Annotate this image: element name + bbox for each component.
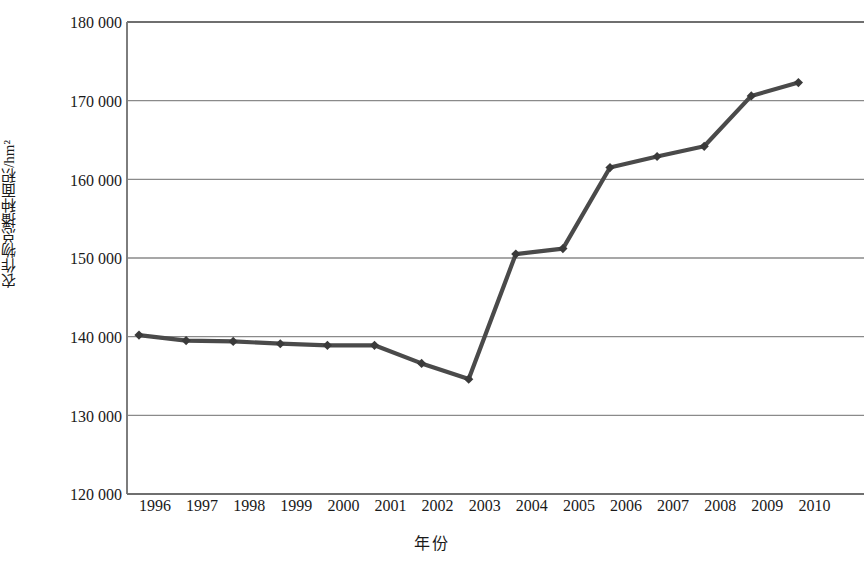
data-line (139, 83, 798, 380)
data-point-marker (323, 341, 332, 350)
data-point-marker (653, 152, 662, 161)
plot-area (0, 0, 864, 563)
x-tick-label: 2010 (784, 498, 844, 514)
data-point-marker (229, 337, 238, 346)
data-point-markers (134, 78, 803, 384)
data-point-marker (276, 339, 285, 348)
gridlines (127, 22, 864, 494)
data-point-marker (794, 78, 803, 87)
data-point-marker (182, 336, 191, 345)
line-chart: 农作物总播种面积/hm² 180 000 170 000 160 000 150… (0, 0, 864, 563)
data-point-marker (134, 330, 143, 339)
x-axis-title: 年份 (0, 530, 864, 554)
